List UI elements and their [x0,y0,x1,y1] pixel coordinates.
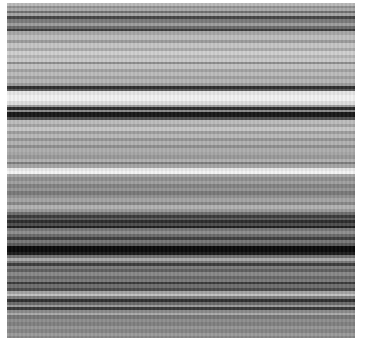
stripe-texture [7,3,355,338]
stripe-band [7,336,355,338]
